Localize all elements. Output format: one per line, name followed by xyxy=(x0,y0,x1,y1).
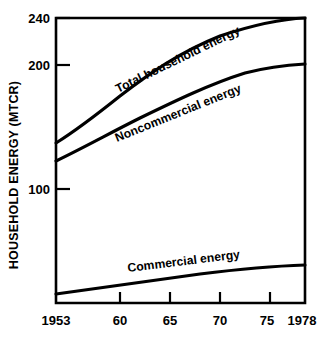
y-axis-title: HOUSEHOLD ENERGY (MTCR) xyxy=(7,81,21,269)
x-tick-label-1978: 1978 xyxy=(288,313,317,328)
x-tick-label-1953: 1953 xyxy=(42,313,71,328)
x-tick-label-60: 60 xyxy=(113,313,127,328)
chart-background xyxy=(0,0,322,346)
x-tick-label-70: 70 xyxy=(213,313,227,328)
y-tick-label-240: 240 xyxy=(28,11,50,26)
x-tick-label-75: 75 xyxy=(260,313,274,328)
chart-figure: 240 200 100 1953 60 65 70 75 1978 HOUSEH… xyxy=(0,0,322,346)
x-tick-label-65: 65 xyxy=(163,313,177,328)
y-tick-label-200: 200 xyxy=(28,58,50,73)
line-chart: 240 200 100 1953 60 65 70 75 1978 HOUSEH… xyxy=(0,0,322,346)
y-tick-label-100: 100 xyxy=(28,182,50,197)
